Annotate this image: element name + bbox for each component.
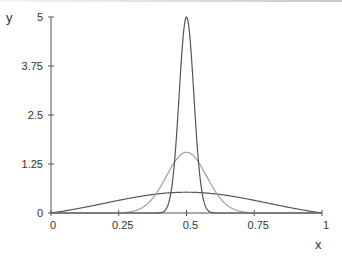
- curve-medium: [51, 152, 322, 213]
- x-tick-label: 0.75: [248, 219, 269, 231]
- y-tick-label: 5: [37, 11, 43, 23]
- x-tick-label: 0.5: [183, 219, 198, 231]
- x-tick-label: 0.25: [112, 219, 133, 231]
- curves: [51, 17, 322, 213]
- curve-narrow: [51, 17, 322, 213]
- x-axis-label: x: [315, 237, 322, 252]
- ticks: 00.250.50.75101.252.53.755: [22, 11, 329, 231]
- x-tick-label: 1: [323, 219, 329, 231]
- curve-wide: [51, 192, 322, 213]
- x-tick-label: 0: [50, 219, 56, 231]
- y-axis-label: y: [6, 10, 13, 25]
- line-chart: 00.250.50.75101.252.53.755 y x: [0, 0, 342, 265]
- y-tick-label: 0: [37, 207, 43, 219]
- y-tick-label: 2.5: [28, 109, 43, 121]
- y-tick-label: 1.25: [22, 158, 43, 170]
- axes: [51, 17, 322, 213]
- y-tick-label: 3.75: [22, 60, 43, 72]
